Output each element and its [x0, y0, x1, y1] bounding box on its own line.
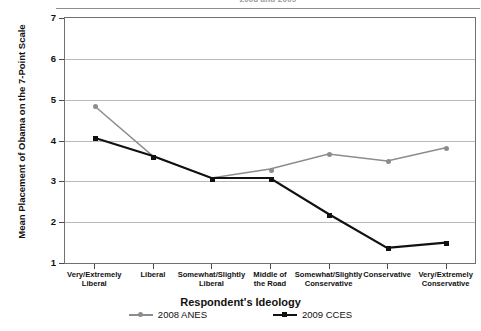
legend-item: 2008 ANES — [129, 309, 207, 320]
data-point-marker — [327, 213, 332, 218]
data-point-marker — [386, 246, 391, 251]
x-tick-line: Very/Extremely — [418, 270, 472, 279]
y-tick-label: 5 — [40, 94, 56, 105]
series-lines — [65, 18, 475, 263]
x-tick-label: Very/ExtremelyConservative — [398, 270, 481, 289]
legend-swatch-icon — [129, 310, 153, 319]
y-axis-label: Mean Placement of Obama on the 7-Point S… — [16, 17, 27, 247]
series-line — [94, 138, 445, 248]
x-tick-line: Liberal — [82, 279, 107, 288]
y-tick-label: 4 — [40, 135, 56, 146]
data-point-marker — [269, 177, 274, 182]
y-tick-label: 2 — [40, 216, 56, 227]
data-point-marker — [269, 168, 274, 173]
data-point-marker — [210, 177, 215, 182]
x-tick-mark — [94, 264, 95, 269]
x-tick-mark — [446, 264, 447, 269]
y-tick-label: 3 — [40, 175, 56, 186]
x-tick-mark — [329, 264, 330, 269]
legend-item: 2009 CCES — [273, 309, 352, 320]
x-tick-mark — [387, 264, 388, 269]
legend-label: 2009 CCES — [302, 309, 352, 320]
y-tick-label: 1 — [40, 257, 56, 268]
y-tick-label: 6 — [40, 53, 56, 64]
data-point-marker — [151, 155, 156, 160]
data-point-marker — [444, 241, 449, 246]
title-divider — [56, 8, 480, 9]
x-tick-line: Conservative — [422, 279, 470, 288]
figure: 2008 and 2009 Mean Placement of Obama on… — [0, 0, 481, 331]
chart-title: 2008 and 2009 — [56, 0, 480, 4]
x-tick-line: Liberal — [140, 270, 165, 279]
legend-swatch-icon — [273, 310, 297, 319]
x-tick-line: Conservative — [305, 279, 353, 288]
x-tick-line: Liberal — [199, 279, 224, 288]
plot-area — [64, 17, 476, 264]
legend-label: 2008 ANES — [158, 309, 207, 320]
x-tick-mark — [153, 264, 154, 269]
legend: 2008 ANES2009 CCES — [0, 309, 481, 320]
x-tick-mark — [270, 264, 271, 269]
y-tick-label: 7 — [40, 12, 56, 23]
chart-title-clipped: 2008 and 2009 — [56, 0, 480, 8]
x-tick-mark — [211, 264, 212, 269]
data-point-marker — [93, 136, 98, 141]
x-axis-label: Respondent's Ideology — [0, 296, 481, 308]
